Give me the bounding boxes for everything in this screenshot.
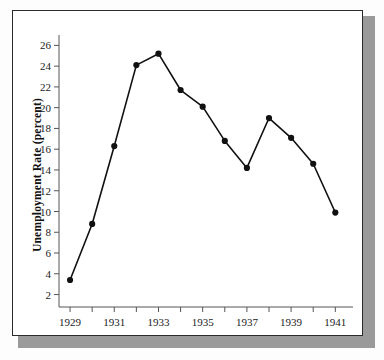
line-chart-svg xyxy=(13,11,364,337)
data-point-marker[interactable] xyxy=(222,138,228,144)
plot-area: Unemployment Rate (percent) 246810121416… xyxy=(13,11,362,335)
data-point-marker[interactable] xyxy=(133,62,139,68)
y-axis-tick-label: 18 xyxy=(21,122,51,134)
x-axis-tick-label: 1933 xyxy=(148,316,170,328)
y-axis-tick-label: 6 xyxy=(21,247,51,259)
x-axis-tick-label: 1937 xyxy=(236,316,258,328)
axes-group xyxy=(59,35,353,307)
y-axis-tick-label: 10 xyxy=(21,206,51,218)
chart-panel: Unemployment Rate (percent) 246810121416… xyxy=(12,10,363,336)
data-point-marker[interactable] xyxy=(288,135,294,141)
x-axis-tick-label: 1929 xyxy=(59,316,81,328)
x-axis-tick-label: 1939 xyxy=(280,316,302,328)
y-axis-tick-label: 24 xyxy=(21,60,51,72)
data-point-marker[interactable] xyxy=(111,143,117,149)
y-axis-tick-label: 4 xyxy=(21,268,51,280)
data-point-marker[interactable] xyxy=(310,161,316,167)
data-point-marker[interactable] xyxy=(177,87,183,93)
ticks-group xyxy=(54,45,335,312)
y-axis-tick-label: 12 xyxy=(21,185,51,197)
y-axis-tick-label: 8 xyxy=(21,226,51,238)
data-point-marker[interactable] xyxy=(67,277,73,283)
y-axis-tick-label: 14 xyxy=(21,164,51,176)
data-point-marker[interactable] xyxy=(266,115,272,121)
data-point-marker[interactable] xyxy=(155,51,161,57)
x-axis-tick-label: 1941 xyxy=(324,316,346,328)
data-point-marker[interactable] xyxy=(244,165,250,171)
y-axis-tick-label: 22 xyxy=(21,81,51,93)
x-axis-tick-label: 1931 xyxy=(103,316,125,328)
y-axis-tick-label: 20 xyxy=(21,102,51,114)
y-axis-tick-label: 26 xyxy=(21,39,51,51)
data-series-group xyxy=(67,51,338,284)
data-point-marker[interactable] xyxy=(200,104,206,110)
x-axis-tick-label: 1935 xyxy=(192,316,214,328)
figure-root: Unemployment Rate (percent) 246810121416… xyxy=(0,0,384,360)
data-line xyxy=(70,54,335,280)
y-axis-tick-label: 16 xyxy=(21,143,51,155)
data-point-marker[interactable] xyxy=(89,221,95,227)
y-axis-tick-label: 2 xyxy=(21,289,51,301)
data-point-marker[interactable] xyxy=(332,209,338,215)
